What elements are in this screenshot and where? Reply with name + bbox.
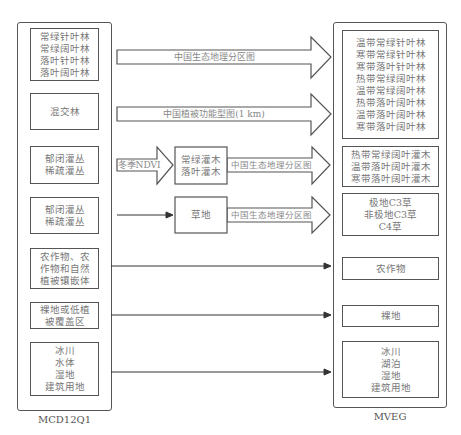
arrow-label-grass-zone: 中国生态地理分区图	[229, 209, 314, 221]
arrow-label-shrub-zone: 中国生态地理分区图	[229, 159, 314, 171]
intermediate-grass-label: 草地	[176, 198, 226, 232]
intermediate-shrub-label: 常绿灌木 落叶灌木	[176, 148, 226, 183]
arrow-label-mixed: 中国植被功能型图(1 km)	[117, 108, 311, 120]
arrow-label-forest: 中国生态地理分区图	[117, 51, 311, 63]
arrow-label-ndvi: 冬季NDVI	[117, 159, 161, 171]
